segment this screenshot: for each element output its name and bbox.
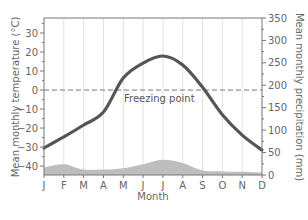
y-tick-label: 0	[32, 85, 38, 96]
right-axis-title: Mean monthly precipitation (mm)	[294, 13, 305, 181]
month-label: A	[179, 180, 186, 191]
right-axis-ticks: 350300250200150100500	[262, 13, 287, 181]
month-label: M	[79, 180, 88, 191]
y-tick-label: 20	[25, 47, 38, 58]
climate-chart: Freezing point 3020100−10−20−30−40 35030…	[0, 0, 308, 220]
month-label: D	[258, 180, 266, 191]
month-label: M	[119, 180, 128, 191]
freezing-point-label: Freezing point	[124, 93, 195, 104]
month-label: N	[238, 180, 245, 191]
precipitation-area	[44, 160, 262, 175]
y-tick-label: 30	[25, 28, 38, 39]
y2-tick-label: 100	[268, 125, 287, 136]
y2-tick-label: 150	[268, 102, 287, 113]
month-label: O	[218, 180, 226, 191]
y-tick-label: 10	[25, 66, 38, 77]
y2-tick-label: 50	[268, 147, 281, 158]
y2-tick-label: 0	[268, 170, 274, 181]
month-label: A	[100, 180, 107, 191]
month-axis-labels: JFMAMJJASOND	[42, 175, 267, 191]
y2-tick-label: 300	[268, 35, 287, 46]
month-label: J	[160, 180, 164, 191]
month-label: J	[141, 180, 145, 191]
x-axis-title: Month	[137, 191, 168, 202]
y2-tick-label: 350	[268, 13, 287, 24]
month-label: J	[42, 180, 46, 191]
left-axis-title: Mean monthly temperature (°C)	[10, 17, 21, 178]
month-label: S	[199, 180, 205, 191]
y2-tick-label: 250	[268, 57, 287, 68]
month-label: F	[61, 180, 67, 191]
y2-tick-label: 200	[268, 80, 287, 91]
